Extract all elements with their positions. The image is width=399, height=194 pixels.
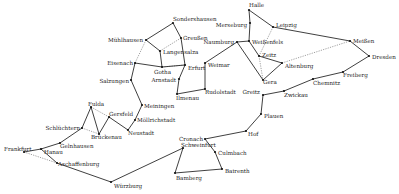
label-rudolstadt: Rudolstadt [205, 89, 237, 95]
edge-greussen-sondershausen [173, 23, 181, 38]
label-wurzburg: Würzburg [114, 183, 143, 190]
label-mellrichstadt: Möllrichstadt [137, 117, 176, 123]
label-gera: Gera [263, 79, 277, 85]
label-aschaffenburg: Aschaffenburg [57, 161, 100, 168]
edge-dresden-freiberg [343, 56, 369, 72]
node-langensalza [159, 50, 161, 52]
node-meissen [349, 40, 351, 42]
node-merseburg [249, 22, 251, 24]
label-weimar: Weimar [208, 62, 230, 68]
edge-naumburg-gera [237, 42, 263, 80]
label-zeitz: Zeitz [262, 52, 276, 58]
node-dresden [368, 55, 370, 57]
edge-altenburg-gera [263, 63, 282, 80]
label-frankfurt: Frankfurt [4, 146, 32, 152]
label-plauen: Plauen [264, 113, 284, 119]
edge-hof-plauen [246, 114, 261, 131]
edge-leipzig-meissen [273, 27, 350, 41]
label-greitz: Greitz [243, 89, 260, 95]
node-eisenach [134, 62, 136, 64]
node-muhlhausen [145, 39, 147, 41]
label-halle: Halle [249, 2, 265, 8]
node-bairenth [221, 168, 223, 170]
edge-arnstadt-erfurt [179, 65, 185, 79]
node-culmbach [214, 151, 216, 153]
label-gersfeld: Gersfeld [109, 111, 133, 117]
node-cronach [204, 138, 206, 140]
node-arnstadt [178, 78, 180, 80]
node-erfurt [184, 64, 186, 66]
label-bruckenau: Brückenau [91, 134, 122, 140]
edge-halle-merseburg [249, 10, 250, 23]
label-bairenth: Bairenth [225, 168, 250, 174]
edge-chemnitz-zwickau [284, 79, 313, 91]
label-hof: Hof [248, 131, 259, 137]
label-schluchtern: Schlüchtern [45, 125, 80, 131]
edge-altenburg-meissen [282, 41, 350, 63]
edge-fulda-schluchtern [82, 107, 91, 128]
label-gotha: Gotha [154, 69, 172, 75]
edge-bamberg-bairenth [175, 169, 222, 173]
label-freiberg: Freiberg [343, 72, 368, 79]
railway-network-diagram: HalleLeipzigMerseburgNaumburgWeißenfelsZ… [0, 0, 399, 194]
node-plauen [260, 113, 262, 115]
label-hanau: Hanau [44, 149, 63, 155]
node-greussen [180, 37, 182, 39]
label-salzungen: Salzungen [99, 78, 129, 85]
edge-merseburg-weissenfels [249, 23, 250, 41]
label-arnstadt: Arnstadt [150, 77, 176, 83]
label-schweinfurt: Schweinfurt [181, 142, 216, 148]
label-culmbach: Culmbach [218, 150, 247, 156]
label-weissenfels: Weißenfels [252, 39, 283, 45]
label-leipzig: Leipzig [276, 22, 297, 29]
edge-weissenfels-naumburg [237, 41, 249, 42]
node-gotha [161, 66, 163, 68]
node-mellrichstadt [134, 119, 136, 121]
node-salzungen [130, 79, 132, 81]
label-merseburg: Merseburg [216, 22, 248, 29]
label-bamberg: Bamberg [176, 175, 202, 182]
label-ilmenau: Ilmenau [176, 95, 200, 101]
edge-plauen-greitz [261, 95, 263, 114]
edge-zwickau-greitz [263, 91, 284, 95]
edge-sondershausen-muhlhausen [146, 23, 173, 40]
node-bamberg [174, 172, 176, 174]
edge-mellrichstadt-neustadt [128, 120, 135, 130]
label-chemnitz: Chemnitz [313, 80, 340, 86]
edge-eisenach-gotha [135, 63, 162, 67]
node-naumburg [236, 41, 238, 43]
node-altenburg [281, 62, 283, 64]
node-hanau [40, 148, 42, 150]
edge-schweinfurt-bamberg [175, 148, 183, 173]
labels-layer: HalleLeipzigMerseburgNaumburgWeißenfelsZ… [4, 2, 396, 190]
edge-wurzburg-schweinfurt [111, 148, 183, 182]
node-hof [245, 130, 247, 132]
label-muhlhausen: Mühlhausen [108, 37, 143, 43]
edge-neustadt-gersfeld [109, 117, 128, 130]
node-wurzburg [110, 181, 112, 183]
label-neustadt: Neustadt [128, 130, 155, 136]
node-leipzig [272, 26, 274, 28]
label-fulda: Fulda [88, 101, 105, 107]
edge-halle-leipzig [249, 10, 273, 27]
label-altenburg: Altenburg [284, 63, 314, 70]
node-weimar [204, 62, 206, 64]
edge-muhlhausen-langensalza [146, 40, 160, 51]
edge-ilmenau-arnstadt [177, 79, 179, 94]
edge-rudolstadt-ilmenau [177, 89, 205, 94]
edge-langensalza-gotha [160, 51, 162, 67]
edge-gersfeld-bruckenau [99, 117, 109, 134]
label-eisenach: Eisenach [107, 60, 133, 66]
label-greussen: Greußen [183, 35, 208, 41]
edge-schluchtern-bruckenau [82, 128, 99, 134]
label-langensalza: Langensalza [163, 49, 199, 56]
label-zwickau: Zwickau [284, 92, 308, 98]
label-naumburg: Naumburg [203, 39, 234, 46]
edge-gotha-erfurt [162, 65, 185, 67]
label-meissen: Meißen [353, 38, 375, 44]
edge-freiberg-chemnitz [313, 72, 343, 79]
edge-gelnhausen-hanau [41, 143, 60, 149]
node-meiningen [141, 104, 143, 106]
edge-salzungen-meiningen [131, 80, 142, 105]
label-sondershausen: Sondershausen [173, 16, 217, 22]
